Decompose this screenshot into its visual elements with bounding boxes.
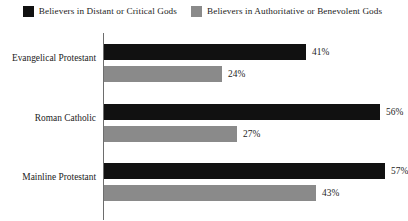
plot-area: Evangelical Protestant 41% 24% Roman Cat… bbox=[0, 28, 405, 221]
bar-value-mainline-protestant-authoritative-benevolent: 43% bbox=[322, 185, 339, 201]
bar-value-evangelical-protestant-authoritative-benevolent: 24% bbox=[228, 66, 245, 82]
category-label-mainline-protestant: Mainline Protestant bbox=[0, 172, 96, 183]
bar-evangelical-protestant-distant-critical bbox=[104, 44, 306, 60]
bar-value-roman-catholic-distant-critical: 56% bbox=[386, 104, 403, 120]
category-label-evangelical-protestant: Evangelical Protestant bbox=[0, 53, 96, 64]
legend-swatch-icon-series-2 bbox=[191, 6, 202, 17]
legend-label-series-1: Believers in Distant or Critical Gods bbox=[39, 6, 177, 17]
bar-value-evangelical-protestant-distant-critical: 41% bbox=[312, 44, 329, 60]
category-label-roman-catholic: Roman Catholic bbox=[0, 113, 96, 124]
bar-roman-catholic-distant-critical bbox=[104, 104, 380, 120]
bar-roman-catholic-authoritative-benevolent bbox=[104, 126, 237, 142]
legend-entry-authoritative-benevolent: Believers in Authoritative or Benevolent… bbox=[191, 6, 382, 17]
chart-legend: Believers in Distant or Critical Gods Be… bbox=[0, 0, 405, 22]
bar-evangelical-protestant-authoritative-benevolent bbox=[104, 66, 222, 82]
legend-entry-distant-critical: Believers in Distant or Critical Gods bbox=[23, 6, 177, 17]
legend-label-series-2: Believers in Authoritative or Benevolent… bbox=[207, 6, 382, 17]
legend-swatch-icon-series-1 bbox=[23, 6, 34, 17]
bar-value-roman-catholic-authoritative-benevolent: 27% bbox=[243, 126, 260, 142]
bar-mainline-protestant-distant-critical bbox=[104, 163, 385, 179]
bar-value-mainline-protestant-distant-critical: 57% bbox=[391, 163, 408, 179]
bar-mainline-protestant-authoritative-benevolent bbox=[104, 185, 316, 201]
